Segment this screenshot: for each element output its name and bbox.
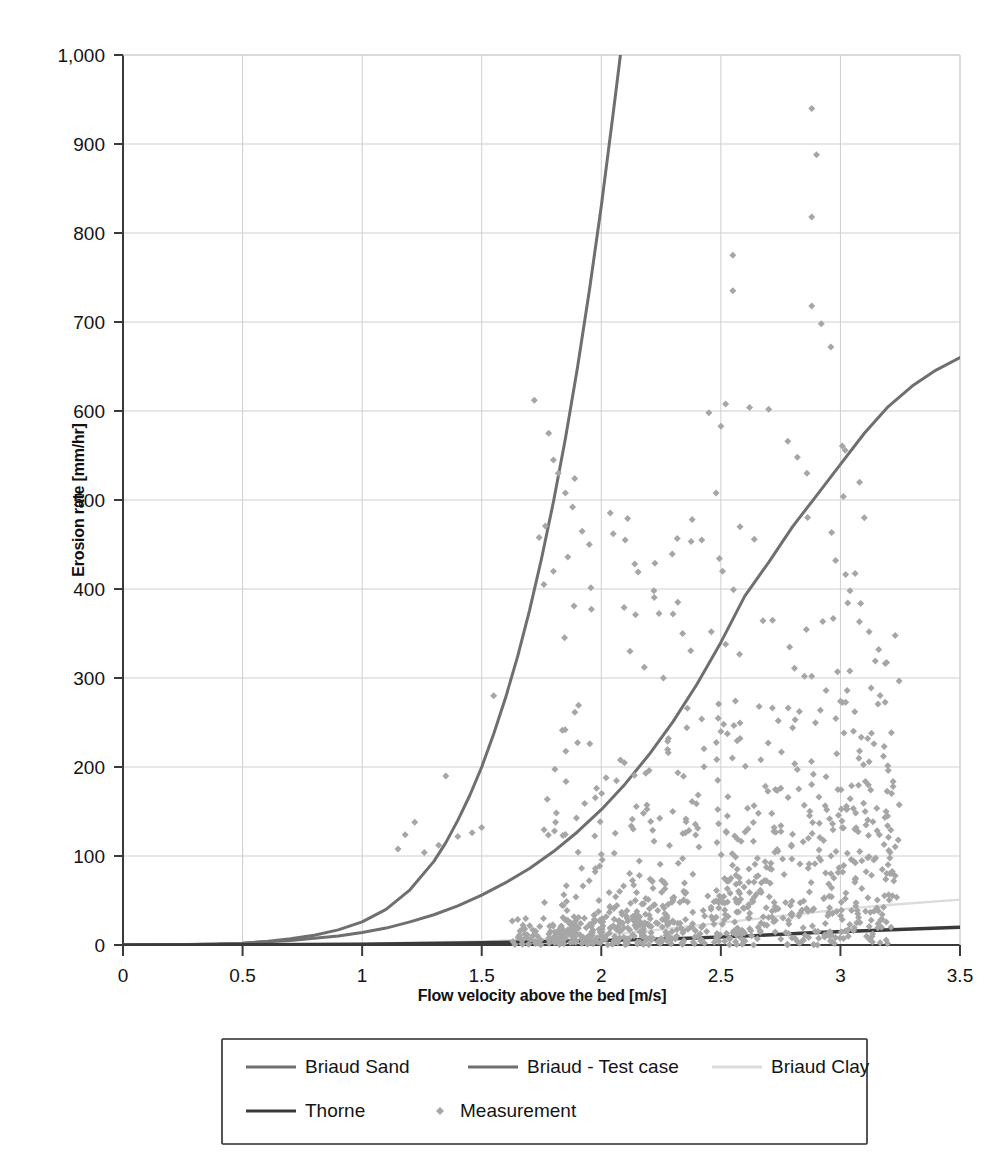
measurement-point [896,801,903,808]
legend-label-briaud-sand: Briaud Sand [305,1056,410,1077]
measurement-point [885,767,892,774]
measurement-point [698,537,705,544]
measurement-point [874,896,881,903]
measurement-point [575,849,582,856]
measurement-point [781,871,788,878]
legend-label-briaud-test-case: Briaud - Test case [527,1056,679,1077]
measurement-point [822,870,829,877]
measurement-point [805,835,812,842]
tick-labels-layer: 01002003004005006007008009001,00000.511.… [57,45,973,986]
measurement-point [762,858,769,865]
measurement-point [823,773,830,780]
measurement-point [816,820,823,827]
measurement-point [846,668,853,675]
measurement-point [701,912,708,919]
measurement-point [777,935,784,942]
measurement-point [806,808,813,815]
measurement-point [864,735,871,742]
measurement-point [881,841,888,848]
measurement-point [819,618,826,625]
measurement-point [722,641,729,648]
measurement-point [796,861,803,868]
measurement-point [722,400,729,407]
measurement-point [629,816,636,823]
measurement-point [858,857,865,864]
measurement-point [869,818,876,825]
measurement-point [586,877,593,884]
measurement-point [892,632,899,639]
measurement-point [581,800,588,807]
measurement-point [806,888,813,895]
measurement-point [522,915,529,922]
measurement-point [607,509,614,516]
measurement-point [890,877,897,884]
measurement-point [703,928,710,935]
measurement-point [620,883,627,890]
measurement-point [572,893,579,900]
measurement-point [695,843,702,850]
measurement-point [730,722,737,729]
measurement-point [855,782,862,789]
measurement-point [765,739,772,746]
measurement-point [808,673,815,680]
measurement-point [870,740,877,747]
measurement-point [892,843,899,850]
measurement-point [649,827,656,834]
measurement-point [815,935,822,942]
measurement-point [833,750,840,757]
measurement-point [552,819,559,826]
measurement-point [724,793,731,800]
measurement-point [868,917,875,924]
measurement-point [571,709,578,716]
measurement-point [812,719,819,726]
legend-label-briaud-clay: Briaud Clay [771,1056,870,1077]
measurement-point [842,571,849,578]
measurement-point [784,438,791,445]
measurement-point [847,795,854,802]
measurement-point [842,890,849,897]
measurement-point [650,885,657,892]
measurement-point [810,941,817,948]
measurement-point [641,664,648,671]
measurement-point [803,626,810,633]
measurement-point [757,756,764,763]
legend-label-thorne: Thorne [305,1100,365,1121]
measurement-point [562,748,569,755]
measurement-point [817,707,824,714]
measurement-point [779,855,786,862]
measurement-point [395,845,402,852]
measurement-point [571,603,578,610]
measurement-point [868,872,875,879]
measurement-point [536,923,543,930]
measurement-point [655,610,662,617]
measurement-point [813,151,820,158]
measurement-point [833,848,840,855]
y-tick-label: 400 [73,579,105,600]
y-axis-title: Erosion rate [mm/hr] [70,423,87,576]
measurement-point [736,651,743,658]
y-tick-label: 1,000 [57,45,105,66]
measurement-point [670,610,677,617]
measurement-point [571,475,578,482]
measurement-point [746,889,753,896]
measurement-point [578,865,585,872]
measurement-point [885,834,892,841]
measurement-point [700,745,707,752]
measurement-point [713,887,720,894]
measurement-point [877,692,884,699]
measurement-point [875,646,882,653]
measurement-scatter-layer [395,105,903,949]
grid-layer [123,55,960,945]
measurement-point [545,430,552,437]
measurement-point [687,647,694,654]
y-tick-label: 300 [73,668,105,689]
measurement-point [803,470,810,477]
measurement-point [700,907,707,914]
measurement-point [695,792,702,799]
measurement-point [442,772,449,779]
measurement-point [866,628,873,635]
measurement-point [454,833,461,840]
measurement-point [421,849,428,856]
measurement-point [828,529,835,536]
measurement-point [858,885,865,892]
